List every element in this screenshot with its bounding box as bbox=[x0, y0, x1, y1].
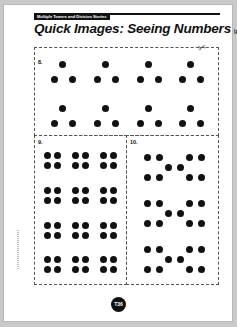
dot-section-10 bbox=[186, 174, 193, 181]
dot-section-9 bbox=[82, 266, 89, 273]
unit-tag: Multiple Towers and Division Stories bbox=[34, 13, 110, 20]
dot-section-9 bbox=[110, 266, 117, 273]
dot-section-9 bbox=[44, 256, 51, 263]
dot-section-9 bbox=[44, 266, 51, 273]
dot-section-9 bbox=[110, 162, 117, 169]
dot-section-8 bbox=[155, 120, 162, 127]
dot-section-8 bbox=[59, 105, 66, 112]
dot-section-9 bbox=[82, 232, 89, 239]
dot-section-10 bbox=[198, 154, 205, 161]
section-10-box bbox=[126, 135, 219, 285]
dot-section-8 bbox=[102, 61, 109, 68]
dot-section-8 bbox=[197, 76, 204, 83]
dot-section-10 bbox=[165, 256, 172, 263]
dot-section-10 bbox=[156, 174, 163, 181]
dot-section-8 bbox=[69, 76, 76, 83]
dot-section-9 bbox=[100, 187, 107, 194]
section-10-label: 10. bbox=[130, 139, 138, 145]
dot-section-10 bbox=[156, 200, 163, 207]
dot-section-8 bbox=[187, 105, 194, 112]
dot-section-9 bbox=[100, 266, 107, 273]
dot-section-10 bbox=[144, 266, 151, 273]
dot-section-10 bbox=[144, 154, 151, 161]
dot-section-9 bbox=[110, 187, 117, 194]
dot-section-10 bbox=[186, 154, 193, 161]
dot-section-8 bbox=[179, 120, 186, 127]
dot-section-9 bbox=[72, 256, 79, 263]
dot-section-8 bbox=[137, 76, 144, 83]
dot-section-9 bbox=[44, 232, 51, 239]
dot-section-9 bbox=[54, 222, 61, 229]
dot-section-10 bbox=[144, 246, 151, 253]
dot-section-9 bbox=[110, 232, 117, 239]
dot-section-9 bbox=[82, 162, 89, 169]
dot-section-10 bbox=[198, 174, 205, 181]
dot-section-10 bbox=[156, 220, 163, 227]
dot-section-9 bbox=[54, 197, 61, 204]
dot-section-9 bbox=[44, 197, 51, 204]
dot-section-10 bbox=[177, 210, 184, 217]
dot-section-9 bbox=[72, 152, 79, 159]
dot-section-9 bbox=[100, 197, 107, 204]
dot-section-8 bbox=[187, 61, 194, 68]
dot-section-8 bbox=[145, 105, 152, 112]
dot-section-10 bbox=[186, 246, 193, 253]
dot-section-9 bbox=[54, 232, 61, 239]
dot-section-10 bbox=[198, 266, 205, 273]
dot-section-9 bbox=[54, 266, 61, 273]
section-9-label: 9. bbox=[38, 139, 43, 145]
dot-section-8 bbox=[137, 120, 144, 127]
dot-section-10 bbox=[165, 164, 172, 171]
dot-section-8 bbox=[197, 120, 204, 127]
dot-section-8 bbox=[155, 76, 162, 83]
dot-section-9 bbox=[110, 152, 117, 159]
dot-section-8 bbox=[51, 120, 58, 127]
dot-section-10 bbox=[144, 200, 151, 207]
section-8-label: 8. bbox=[38, 59, 43, 65]
dot-section-9 bbox=[82, 197, 89, 204]
dot-section-10 bbox=[186, 266, 193, 273]
dot-section-10 bbox=[156, 266, 163, 273]
dot-section-10 bbox=[144, 220, 151, 227]
dot-section-9 bbox=[44, 222, 51, 229]
dot-section-9 bbox=[44, 187, 51, 194]
dot-section-9 bbox=[82, 222, 89, 229]
dot-section-9 bbox=[54, 152, 61, 159]
dot-section-9 bbox=[100, 222, 107, 229]
dot-section-8 bbox=[145, 61, 152, 68]
dot-section-9 bbox=[82, 152, 89, 159]
dot-section-10 bbox=[198, 220, 205, 227]
dot-section-9 bbox=[72, 187, 79, 194]
dot-section-10 bbox=[156, 154, 163, 161]
dot-section-9 bbox=[82, 187, 89, 194]
copyright-vertical-text bbox=[17, 230, 19, 270]
dot-section-9 bbox=[100, 152, 107, 159]
dot-section-8 bbox=[112, 76, 119, 83]
dot-section-10 bbox=[186, 200, 193, 207]
dot-section-9 bbox=[44, 152, 51, 159]
dot-section-9 bbox=[72, 232, 79, 239]
header-bar: Multiple Towers and Division Stories bbox=[34, 13, 220, 20]
dot-section-8 bbox=[59, 61, 66, 68]
page-number-badge: T36 bbox=[111, 297, 126, 312]
dot-section-8 bbox=[102, 105, 109, 112]
dot-section-8 bbox=[69, 120, 76, 127]
dot-section-8 bbox=[94, 76, 101, 83]
page-title: Quick Images: Seeing Numbers(page 3 of 6… bbox=[34, 21, 237, 36]
dot-section-9 bbox=[54, 162, 61, 169]
dot-section-9 bbox=[44, 162, 51, 169]
title-subtitle: (page 3 of 6) bbox=[234, 29, 237, 34]
dot-section-10 bbox=[156, 246, 163, 253]
dot-section-9 bbox=[72, 222, 79, 229]
dot-section-9 bbox=[110, 197, 117, 204]
dot-section-9 bbox=[100, 162, 107, 169]
dot-section-9 bbox=[54, 256, 61, 263]
dot-section-10 bbox=[144, 174, 151, 181]
dot-section-10 bbox=[177, 164, 184, 171]
dot-section-8 bbox=[179, 76, 186, 83]
dot-section-9 bbox=[54, 187, 61, 194]
dot-section-9 bbox=[100, 232, 107, 239]
dot-section-10 bbox=[198, 200, 205, 207]
dot-section-10 bbox=[165, 210, 172, 217]
dot-section-8 bbox=[94, 120, 101, 127]
